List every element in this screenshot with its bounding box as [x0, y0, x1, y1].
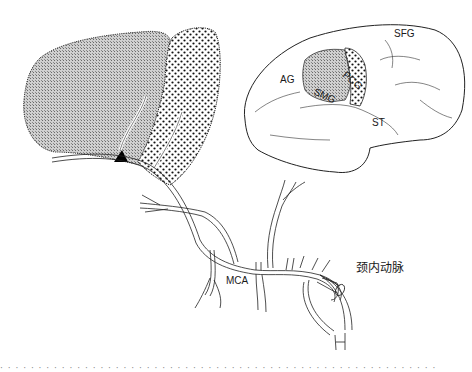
- label-ag: AG: [280, 74, 295, 85]
- label-internal-carotid-artery: 颈内动脉: [356, 260, 404, 275]
- label-mca: MCA: [226, 275, 249, 286]
- lateral-brain-view: [244, 25, 464, 173]
- mca-vessel-tree: [52, 154, 352, 350]
- cropped-caption: · · · · · · · · · · · · · · · · · · · · …: [0, 364, 472, 372]
- label-sfg: SFG: [394, 28, 415, 39]
- brain-vascular-diagram: SFG PCG AG SMG ST MCA 颈内动脉: [0, 0, 472, 372]
- label-st: ST: [372, 117, 385, 128]
